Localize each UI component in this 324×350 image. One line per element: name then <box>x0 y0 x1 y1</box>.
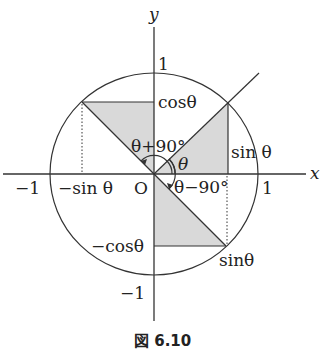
label-theta: θ <box>178 154 188 174</box>
origin-label: O <box>134 178 148 198</box>
y-tick-1: 1 <box>158 54 169 74</box>
unit-circle-figure: y x O 1 −1 1 −1 cosθ sin θ −sin θ −cosθ … <box>0 0 324 350</box>
label-cos-theta: cosθ <box>158 92 197 112</box>
label-neg-cos-theta: −cosθ <box>91 236 144 256</box>
label-neg-sin-theta: −sin θ <box>58 178 113 198</box>
x-axis-label: x <box>310 163 320 183</box>
x-tick-1: 1 <box>262 178 273 198</box>
label-theta-plus-90: θ+90° <box>131 136 186 156</box>
diagram-canvas: y x O 1 −1 1 −1 cosθ sin θ −sin θ −cosθ … <box>0 0 324 350</box>
label-theta-minus-90: θ−90° <box>174 177 229 197</box>
figure-caption: 図 6.10 <box>134 332 191 350</box>
x-tick-neg-1: −1 <box>15 178 40 198</box>
y-axis-label: y <box>148 4 159 24</box>
label-sin-theta-bottom: sinθ <box>219 250 254 270</box>
label-sin-theta-right: sin θ <box>231 142 272 162</box>
y-tick-neg-1: −1 <box>120 283 145 303</box>
